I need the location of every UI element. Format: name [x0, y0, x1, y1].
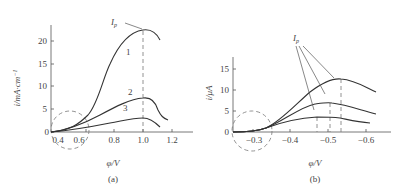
- a-curve-labels: 1 2 3: [123, 47, 133, 113]
- a-xtick-10: 1.0: [137, 135, 149, 145]
- b-caption: (b): [310, 174, 321, 184]
- a-curve-2: [51, 98, 168, 132]
- b-curve-top: [233, 79, 376, 132]
- b-ytick-15: 15: [220, 64, 230, 74]
- panel-a: 0 5 10 15 20 0.4 0.6 0.8 1.0 1.2 i/mA·cm…: [12, 17, 193, 184]
- a-ip-leader: [125, 23, 142, 29]
- a-y-ticks: [51, 41, 54, 132]
- b-curve-middle: [233, 103, 376, 132]
- a-x-tick-labels: 0.4 0.6 0.8 1.0 1.2: [52, 135, 177, 145]
- a-curve-label-2: 2: [128, 87, 133, 97]
- a-curve-label-3: 3: [123, 103, 128, 113]
- b-ytick-0: 0: [225, 127, 230, 137]
- a-ip-label: Ip: [110, 17, 117, 28]
- a-ytick-5: 5: [43, 104, 48, 114]
- b-peak-markers: [317, 79, 341, 132]
- b-ytick-10: 10: [220, 85, 230, 95]
- a-curve-1: [51, 30, 160, 132]
- figure: 0 5 10 15 20 0.4 0.6 0.8 1.0 1.2 i/mA·cm…: [0, 0, 411, 196]
- b-xtick-06: −0.6: [358, 135, 375, 145]
- b-x-tick-labels: −0.3 −0.4 −0.5 −0.6: [246, 135, 375, 145]
- b-curve-bottom: [233, 117, 370, 132]
- a-y-axis-label: i/mA·cm−1: [12, 70, 22, 107]
- a-curve-label-1: 1: [126, 47, 131, 57]
- b-ytick-5: 5: [225, 106, 230, 116]
- a-ytick-0: 0: [45, 127, 50, 137]
- b-ip-leaders: [296, 46, 334, 110]
- b-xtick-05: −0.5: [320, 135, 337, 145]
- b-x-ticks: [253, 129, 366, 132]
- a-ytick-15: 15: [38, 59, 48, 69]
- b-x-axis-label: φ/V: [309, 158, 323, 168]
- panel-b: 0 5 10 15 −0.3 −0.4 −0.5 −0.6 i/μA φ/V (…: [204, 33, 391, 184]
- b-y-axis-label: i/μA: [204, 85, 214, 101]
- a-xtick-04: 0.4: [52, 135, 64, 145]
- a-x-axis-label: φ/V: [107, 158, 121, 168]
- a-ytick-20: 20: [38, 36, 48, 46]
- b-xtick-04: −0.4: [282, 135, 299, 145]
- b-xtick-03: −0.3: [246, 135, 263, 145]
- b-y-ticks: [233, 69, 236, 111]
- a-xtick-08: 0.8: [108, 135, 120, 145]
- b-ip-label: Ip: [292, 33, 299, 44]
- a-curve-3: [51, 118, 160, 132]
- a-y-tick-labels: 0 5 10 15 20: [38, 36, 50, 137]
- a-ytick-10: 10: [38, 81, 48, 91]
- a-caption: (a): [108, 174, 118, 184]
- b-y-tick-labels: 0 5 10 15: [220, 64, 230, 137]
- a-xtick-12: 1.2: [166, 135, 177, 145]
- a-x-ticks: [86, 129, 172, 132]
